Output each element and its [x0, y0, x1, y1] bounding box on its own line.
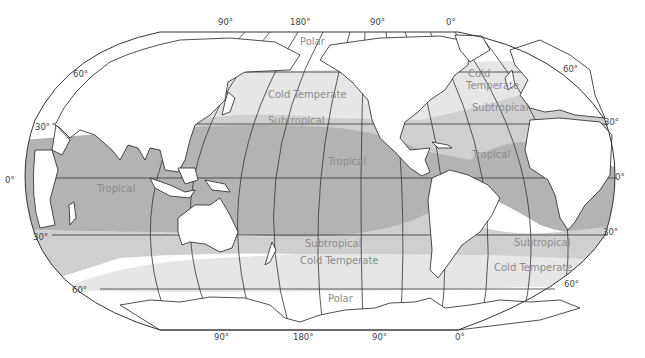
left-lat-label-0: 0° — [5, 175, 15, 185]
top-lon-label-90b: 90° — [370, 17, 385, 27]
bottom-lon-label-0: 0° — [455, 332, 465, 342]
zone-label-cold-temperate-north-pacific: Cold Temperate — [268, 89, 347, 100]
right-lat-label-0: 0° — [615, 172, 625, 182]
top-lon-label-180: 180° — [290, 17, 310, 27]
zone-label-polar-south: Polar — [328, 293, 354, 304]
right-lat-label-30s: 30° — [603, 227, 618, 237]
top-longitude-labels: 90° 180° 90° 0° — [218, 17, 456, 27]
top-lon-label-90: 90° — [218, 17, 233, 27]
zone-label-cold-temperate-south-atlantic: Cold Temperate — [494, 262, 573, 273]
bottom-lon-label-90b: 90° — [372, 332, 387, 342]
zone-label-polar-north: Polar — [300, 36, 326, 47]
right-lat-label-30n: 30° — [604, 117, 619, 127]
zone-label-temperate-word: Temperate — [465, 80, 519, 91]
zone-label-subtropical-south-atlantic: Subtropical — [514, 237, 571, 248]
left-lat-label-30n: 30° — [35, 122, 50, 132]
zone-label-cold-word: Cold — [468, 68, 490, 79]
right-lat-label-60s: 60° — [564, 279, 579, 289]
top-lon-label-0: 0° — [446, 17, 456, 27]
right-lat-label-60n: 60° — [563, 64, 578, 74]
zone-label-subtropical-south-pacific: Subtropical — [305, 238, 362, 249]
bottom-lon-label-90: 90° — [214, 332, 229, 342]
zone-label-tropical-atlantic: Tropical — [471, 149, 510, 160]
zone-label-cold-temperate-south-pacific: Cold Temperate — [300, 255, 379, 266]
zone-label-subtropical-north-pacific: Subtropical — [268, 115, 325, 126]
zone-label-tropical-indian: Tropical — [96, 183, 135, 194]
bottom-longitude-labels: 90° 180° 90° 0° — [214, 332, 465, 342]
zone-label-tropical-pacific: Tropical — [327, 156, 366, 167]
left-lat-label-30s: 30° — [33, 232, 48, 242]
ocean-temperature-zones-map: Polar Cold Temperate Subtropical Tropica… — [0, 0, 645, 358]
left-lat-label-60s: 60° — [72, 285, 87, 295]
bottom-lon-label-180: 180° — [293, 332, 313, 342]
left-lat-label-60n: 60° — [73, 69, 88, 79]
zone-label-subtropical-north-atlantic: Subtropical — [472, 102, 529, 113]
